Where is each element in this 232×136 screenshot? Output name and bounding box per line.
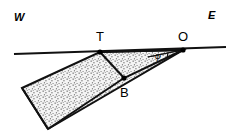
point-marker-o [180,47,185,52]
point-label-t: T [96,30,104,43]
diagram-canvas: W E T O B φ [0,0,232,136]
point-label-o: O [178,30,188,43]
phi-angle-arc [167,53,168,58]
point-marker-b [121,75,126,80]
cross-section-svg [0,0,232,136]
angle-label-phi: φ [155,52,161,61]
point-label-b: B [120,86,129,99]
compass-label-east: E [208,10,215,21]
compass-label-west: W [14,12,24,23]
point-marker-t [97,49,102,54]
